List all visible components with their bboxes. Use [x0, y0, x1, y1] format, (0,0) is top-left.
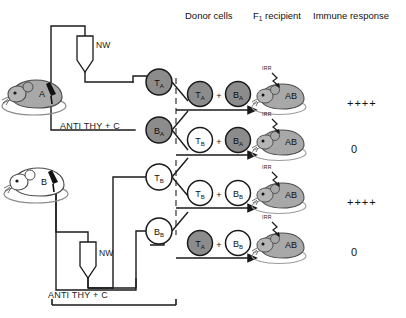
recipient-label-row1: AB	[285, 91, 297, 101]
immune-response-row1: ++++	[347, 98, 377, 109]
irr-label-row1: IRR	[262, 66, 272, 71]
irr-label-row4: IRR	[262, 215, 272, 220]
recipient-mouse-row4	[252, 233, 306, 264]
recipient-mice: AB AB AB	[0, 0, 406, 318]
immune-response-row2: 0	[351, 144, 358, 155]
recipient-mouse-row2	[252, 130, 306, 161]
irr-label-row3: IRR	[262, 165, 272, 170]
recipient-label-row3: AB	[285, 190, 297, 200]
recipient-label-row2: AB	[285, 137, 297, 147]
irr-label-row2: IRR	[262, 112, 272, 117]
recipient-mouse-row1	[252, 84, 306, 115]
recipient-label-row4: AB	[285, 240, 297, 250]
immune-response-row3: ++++	[347, 197, 377, 208]
experiment-diagram: Donor cells F1 recipient Immune response	[0, 0, 406, 318]
immune-response-row4: 0	[351, 247, 358, 258]
recipient-mouse-row3	[252, 183, 306, 214]
